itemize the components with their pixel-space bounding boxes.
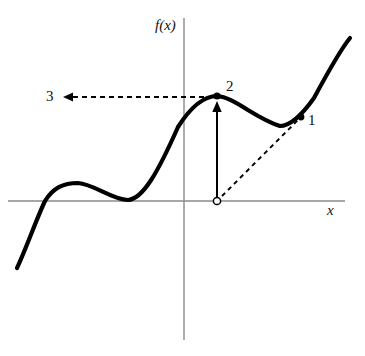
left-arrowhead-icon [63, 93, 73, 102]
y-axis-label: f(x) [155, 18, 176, 33]
point-1-label: 1 [308, 113, 316, 128]
point-3-label: 3 [46, 89, 54, 104]
x-axis-label: x [327, 203, 334, 218]
point-2-label: 2 [226, 79, 234, 94]
point-1-dot [298, 114, 305, 121]
up-arrowhead-icon [212, 101, 221, 112]
dashed-diagonal-ray [222, 120, 298, 196]
point-2-dot [213, 92, 220, 99]
origin-open-circle-marker [213, 197, 220, 204]
graph-canvas [0, 0, 365, 356]
function-graph-figure: f(x) x 1 2 3 [0, 0, 365, 356]
